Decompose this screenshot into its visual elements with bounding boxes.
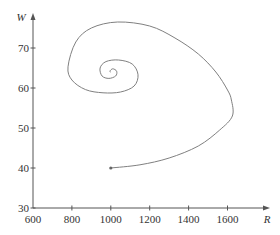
y-tick-label: 70	[18, 42, 30, 54]
y-tick-label: 30	[18, 202, 30, 214]
y-axis-arrow-icon	[31, 13, 36, 20]
y-tick-label: 40	[18, 162, 30, 174]
x-tick-label: 800	[64, 213, 81, 225]
axes: 60080010001200140016003040506070RW	[16, 11, 270, 225]
y-axis-label: W	[16, 11, 26, 23]
start-point-marker	[109, 166, 112, 169]
trajectory-path	[68, 22, 233, 168]
x-tick-label: 1000	[100, 213, 123, 225]
x-tick-label: 1600	[217, 213, 240, 225]
y-tick-label: 50	[18, 122, 30, 134]
x-axis-label: R	[263, 213, 271, 225]
y-tick-label: 60	[18, 82, 30, 94]
trajectory-curve	[68, 22, 233, 170]
x-tick-label: 1200	[139, 213, 162, 225]
x-tick-label: 600	[25, 213, 42, 225]
x-tick-label: 1400	[178, 213, 201, 225]
phase-plot: 60080010001200140016003040506070RW	[0, 0, 280, 235]
x-axis-arrow-icon	[263, 206, 270, 211]
